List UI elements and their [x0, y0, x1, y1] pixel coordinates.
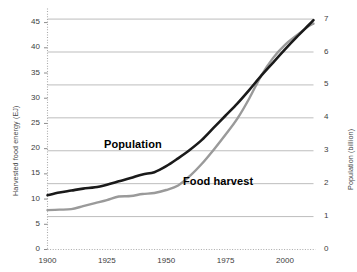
y-axis-left-tick-label: 0 — [18, 244, 40, 253]
y-axis-left-tick-label: 45 — [18, 17, 40, 26]
series-lines-group — [48, 20, 314, 210]
y-axis-right-title: Population (billion) — [346, 129, 355, 190]
axis-lines-group — [44, 9, 316, 250]
y-axis-left-tick-label: 40 — [18, 42, 40, 51]
y-axis-left-tick-label: 30 — [18, 93, 40, 102]
series-line-population — [48, 20, 314, 195]
y-axis-right-tick-label: 3 — [324, 145, 346, 154]
y-axis-left-tick-label: 10 — [18, 194, 40, 203]
x-axis-tick-label: 1900 — [28, 256, 68, 265]
chart-figure: Harvested food energy (EJ) Population (b… — [0, 0, 357, 272]
y-axis-right-tick-label: 1 — [324, 211, 346, 220]
y-axis-right-tick-label: 7 — [324, 14, 346, 23]
x-axis-tick-label: 1925 — [87, 256, 127, 265]
y-axis-left-tick-label: 20 — [18, 143, 40, 152]
y-axis-right-tick-label: 6 — [324, 47, 346, 56]
x-axis-tick-label: 1950 — [146, 256, 186, 265]
y-axis-right-tick-label: 2 — [324, 178, 346, 187]
y-axis-left-tick-label: 5 — [18, 219, 40, 228]
y-axis-left-tick-label: 15 — [18, 168, 40, 177]
chart-plot-area — [0, 0, 357, 272]
y-axis-right-tick-label: 5 — [324, 79, 346, 88]
y-axis-left-tick-label: 25 — [18, 118, 40, 127]
x-axis-tick-label: 1975 — [206, 256, 246, 265]
y-axis-left-tick-label: 35 — [18, 68, 40, 77]
y-axis-right-tick-label: 0 — [324, 244, 346, 253]
series-label-food-harvest: Food harvest — [183, 175, 253, 187]
y-axis-right-tick-label: 4 — [324, 112, 346, 121]
x-axis-tick-label: 2000 — [265, 256, 305, 265]
series-label-population: Population — [104, 138, 162, 150]
